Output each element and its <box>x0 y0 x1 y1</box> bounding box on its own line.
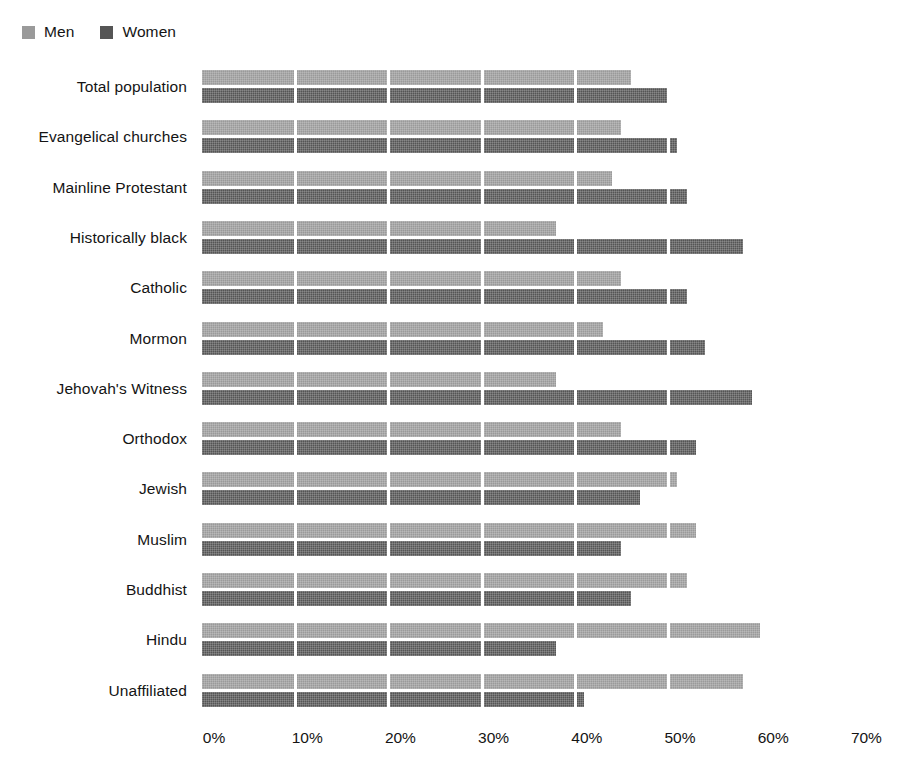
bar-men <box>202 472 677 487</box>
bar-men <box>202 623 761 638</box>
x-tick-label: 20% <box>385 729 416 747</box>
bar-women <box>202 440 696 455</box>
category-label: Mainline Protestant <box>15 165 195 211</box>
chart-row: Total population <box>0 64 903 110</box>
bar-women <box>202 641 556 656</box>
bar-men <box>202 573 687 588</box>
bar-men <box>202 271 621 286</box>
bar-men <box>202 70 631 85</box>
x-axis: 0%10%20%30%40%50%60%70% <box>0 729 903 755</box>
row-bars <box>202 623 892 659</box>
row-bars <box>202 422 892 458</box>
x-tick-label: 10% <box>292 729 323 747</box>
bar-women <box>202 138 677 153</box>
chart-row: Mainline Protestant <box>0 165 903 211</box>
chart-row: Historically black <box>0 215 903 261</box>
chart-row: Unaffiliated <box>0 668 903 714</box>
x-tick-label: 50% <box>664 729 695 747</box>
x-tick-label: 60% <box>758 729 789 747</box>
row-bars <box>202 573 892 609</box>
row-bars <box>202 322 892 358</box>
category-label: Unaffiliated <box>15 668 195 714</box>
x-tick-label: 0% <box>203 729 225 747</box>
row-bars <box>202 120 892 156</box>
x-tick-label: 30% <box>478 729 509 747</box>
chart-row: Catholic <box>0 265 903 311</box>
row-bars <box>202 472 892 508</box>
bar-men <box>202 221 556 236</box>
category-label: Jewish <box>15 466 195 512</box>
bar-women <box>202 390 752 405</box>
row-bars <box>202 70 892 106</box>
category-label: Mormon <box>15 316 195 362</box>
category-label: Catholic <box>15 265 195 311</box>
bar-women <box>202 88 668 103</box>
category-label: Orthodox <box>15 416 195 462</box>
x-tick-label: 40% <box>571 729 602 747</box>
row-bars <box>202 674 892 710</box>
category-label: Muslim <box>15 517 195 563</box>
bar-men <box>202 422 621 437</box>
category-label: Total population <box>15 64 195 110</box>
category-label: Jehovah's Witness <box>15 366 195 412</box>
bar-men <box>202 523 696 538</box>
row-bars <box>202 372 892 408</box>
category-label: Evangelical churches <box>15 114 195 160</box>
chart-row: Mormon <box>0 316 903 362</box>
chart-row: Muslim <box>0 517 903 563</box>
chart-row: Jewish <box>0 466 903 512</box>
bar-men <box>202 171 612 186</box>
chart-row: Buddhist <box>0 567 903 613</box>
x-tick-label: 70% <box>851 729 882 747</box>
bar-women <box>202 189 687 204</box>
bar-women <box>202 591 631 606</box>
bar-chart-plot-area: Total populationEvangelical churchesMain… <box>0 0 903 780</box>
row-bars <box>202 221 892 257</box>
category-label: Historically black <box>15 215 195 261</box>
chart-row: Orthodox <box>0 416 903 462</box>
chart-row: Hindu <box>0 617 903 663</box>
row-bars <box>202 523 892 559</box>
bar-women <box>202 541 621 556</box>
bar-women <box>202 490 640 505</box>
bar-men <box>202 372 556 387</box>
chart-row: Jehovah's Witness <box>0 366 903 412</box>
chart-row: Evangelical churches <box>0 114 903 160</box>
bar-women <box>202 692 584 707</box>
bar-men <box>202 322 603 337</box>
category-label: Hindu <box>15 617 195 663</box>
bar-women <box>202 340 705 355</box>
bar-men <box>202 120 621 135</box>
row-bars <box>202 171 892 207</box>
bar-women <box>202 239 743 254</box>
row-bars <box>202 271 892 307</box>
category-label: Buddhist <box>15 567 195 613</box>
bar-men <box>202 674 743 689</box>
bar-women <box>202 289 687 304</box>
